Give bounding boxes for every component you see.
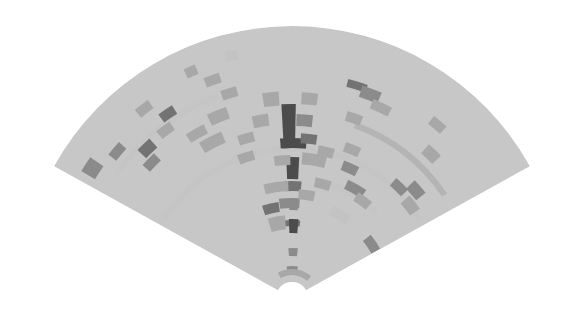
- fan-clip-group: [0, 0, 586, 320]
- sonar-image: [0, 0, 586, 320]
- noise-grain: [0, 0, 586, 320]
- sonar-fan: [0, 0, 586, 320]
